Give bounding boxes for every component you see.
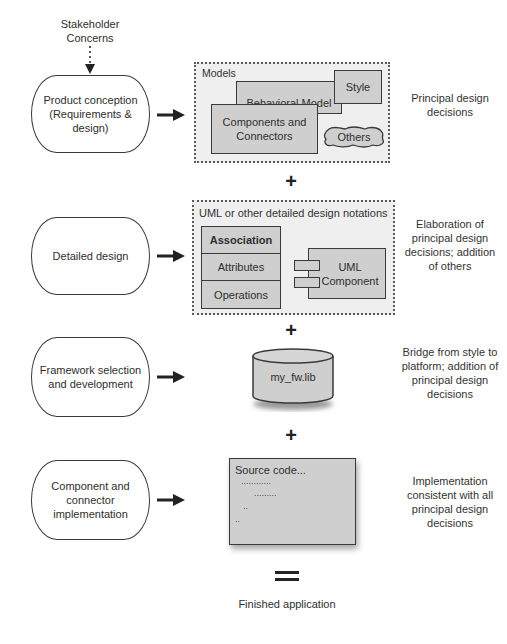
stage-label: Component and connector implementation [38,479,143,521]
code-line: .. [243,501,248,511]
code-line: ......... [254,488,277,498]
stakeholder-concerns-label: Stakeholder Concerns [40,17,140,45]
components-connectors-box: Components and Connectors [211,104,318,154]
uml-component-box: UML Component [308,248,386,299]
note-principal-decisions: Principal design decisions [400,91,500,119]
dotted-arrow-down-icon [84,46,96,76]
style-label: Style [346,80,370,94]
models-title: Models [202,67,236,79]
code-line: .. [235,514,240,524]
arrow-right-icon [157,494,185,506]
stage-product-conception: Product conception (Requirements & desig… [31,75,150,153]
stage-label: Framework selection and development [38,363,143,391]
note-bridge: Bridge from style to platform; addition … [400,345,500,401]
class-operations-row: Operations [202,281,280,308]
uml-title: UML or other detailed design notations [199,207,388,219]
models-artifact-box: Models Behavioral Model Style Components… [194,62,390,163]
source-code-title: Source code... [235,464,306,476]
note-implementation: Implementation consistent with all princ… [398,474,502,530]
equals-operator [275,571,299,581]
finished-application-label: Finished application [237,597,337,611]
uml-class-box: Association Attributes Operations [201,226,281,309]
plus-operator: + [281,425,301,445]
stage-framework-selection: Framework selection and development [31,337,150,417]
library-label: my_fw.lib [253,370,333,384]
uml-artifact-box: UML or other detailed design notations A… [192,200,395,315]
uml-component-label: UML Component [315,260,385,288]
arrow-right-icon [157,250,185,262]
arrow-right-icon [157,109,185,121]
stage-component-implementation: Component and connector implementation [31,460,150,540]
code-line: ............ [241,476,271,486]
stage-label: Detailed design [53,249,129,263]
plus-operator: + [281,320,301,340]
stage-detailed-design: Detailed design [31,217,150,295]
class-name-row: Association [202,227,280,254]
component-port-icon [294,260,320,271]
arrow-right-icon [157,371,185,383]
plus-operator: + [281,171,301,191]
stage-label: Product conception (Requirements & desig… [38,93,143,135]
component-port-icon [294,277,320,288]
components-label: Components and Connectors [220,115,309,143]
source-code-box: Source code... ............ ......... ..… [229,458,356,545]
class-attributes-row: Attributes [202,254,280,281]
others-label: Others [323,130,385,144]
note-elaboration: Elaboration of principal design decision… [400,217,500,273]
style-box: Style [334,70,382,104]
